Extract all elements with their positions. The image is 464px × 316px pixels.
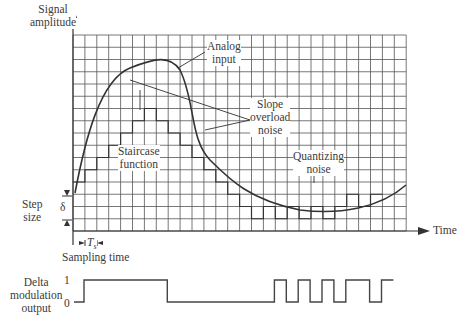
level-1-label: 1 bbox=[64, 274, 70, 287]
sampling-time-label: Sampling time bbox=[62, 251, 129, 264]
slope-overload-label: Slopeoverloadnoise bbox=[250, 98, 290, 137]
step-size-label: Stepsize bbox=[22, 198, 42, 224]
delta-symbol: δ bbox=[60, 201, 65, 214]
level-0-label: 0 bbox=[64, 297, 70, 310]
dm-output-label: Deltamodulationoutput bbox=[10, 276, 62, 315]
quantizing-noise-label: Quantizingnoise bbox=[293, 150, 344, 176]
y-axis-label: Signalamplitude bbox=[30, 3, 76, 29]
staircase-label: Staircasefunction bbox=[118, 145, 160, 171]
dm-output-waveform bbox=[74, 280, 393, 302]
analog-input-curve bbox=[75, 60, 406, 212]
x-axis-label: Time bbox=[433, 224, 457, 237]
analog-input-label: Analoginput bbox=[207, 40, 241, 66]
x-axis-arrow-icon bbox=[418, 227, 430, 235]
